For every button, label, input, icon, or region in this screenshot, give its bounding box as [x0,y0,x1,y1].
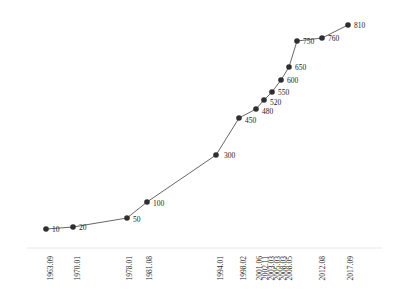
data-value-label: 10 [52,225,60,234]
data-point-marker[interactable] [144,199,150,205]
series-line-path [46,25,348,229]
data-value-label: 810 [354,21,366,30]
data-value-label: 100 [153,199,165,208]
data-value-label: 650 [295,63,307,72]
x-tick-label: 1981.08 [145,256,154,281]
data-point-marker[interactable] [345,22,351,28]
x-tick-label: 1970.01 [73,256,82,281]
data-value-label: 600 [287,76,299,85]
data-value-label: 760 [328,34,340,43]
data-value-label: 520 [270,98,282,107]
data-point-marker[interactable] [261,97,267,103]
data-point-marker[interactable] [269,89,275,95]
data-value-label: 20 [79,223,87,232]
data-point-marker[interactable] [253,106,259,112]
data-value-label: 50 [133,215,141,224]
data-point-marker[interactable] [294,38,300,44]
x-tick-label: 2008.05 [285,256,294,281]
data-value-label: 480 [262,107,274,116]
data-point-marker[interactable] [124,215,130,221]
x-tick-label: 1963.09 [46,256,55,281]
data-point-markers [43,22,351,232]
data-value-label: 450 [245,116,257,125]
data-point-marker[interactable] [236,115,242,121]
data-value-label: 550 [278,88,290,97]
x-tick-label: 1978.01 [125,256,134,281]
data-value-label: 300 [224,151,236,160]
data-point-marker[interactable] [319,35,325,41]
x-tick-label: 2012.08 [318,256,327,281]
data-point-marker[interactable] [286,64,292,70]
data-value-labels: 102050100300450480520550600650750760810 [52,21,366,234]
x-axis-tick-labels: 1963.091970.011978.011981.081994.011998.… [46,256,355,281]
data-value-label: 750 [303,37,315,46]
chart-canvas: 102050100300450480520550600650750760810 … [0,0,404,308]
x-tick-label: 1998.02 [239,256,248,281]
data-point-marker[interactable] [70,224,76,230]
line-chart: 102050100300450480520550600650750760810 … [0,0,404,308]
data-point-marker[interactable] [43,226,49,232]
data-point-marker[interactable] [278,77,284,83]
data-point-marker[interactable] [213,152,219,158]
x-tick-label: 1994.01 [216,256,225,281]
x-tick-label: 2017.09 [346,256,355,281]
